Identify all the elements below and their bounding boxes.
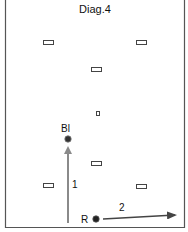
field-border [6,0,185,228]
marker-upper-center [92,68,102,72]
player-bl-label: Bl [61,123,70,134]
player-r-ball-icon [93,216,99,222]
arrow-2 [103,215,175,219]
player-r-label: R [81,214,88,225]
marker-center-small [97,112,100,116]
marker-top-right [137,41,147,45]
marker-lower-center [92,162,102,166]
marker-bottom-left [44,184,54,188]
marker-top-left [44,41,54,45]
arrow-2-label: 2 [119,202,125,213]
player-bl-ball-icon [65,136,71,142]
diagram-canvas: Diag.4 1 2 Bl R [0,0,188,232]
diagram-svg: Diag.4 1 2 Bl R [0,0,188,232]
arrow-1-label: 1 [72,179,78,190]
diagram-title: Diag.4 [79,3,111,15]
markers [44,41,147,189]
marker-bottom-right [137,185,147,189]
